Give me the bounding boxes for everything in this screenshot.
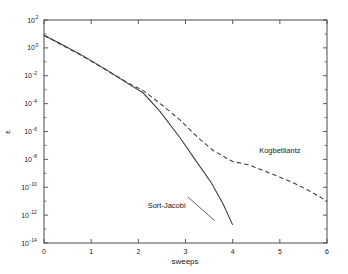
x-tick-label: 6 — [325, 248, 329, 255]
y-axis-label: ε — [3, 130, 12, 134]
x-tick-label: 0 — [42, 248, 46, 255]
y-tick-label: 10 — [21, 184, 29, 191]
x-tick-label: 4 — [231, 248, 235, 255]
x-axis-tick-labels: 0123456 — [42, 248, 329, 255]
y-tick-exponent: 0 — [36, 42, 39, 48]
y-tick-label: 10 — [24, 100, 32, 107]
x-tick-label: 2 — [136, 248, 140, 255]
y-tick-label: 10 — [24, 156, 32, 163]
y-tick-exponent: -12 — [30, 209, 37, 215]
axis-titles: sweeps ε — [3, 130, 199, 266]
x-tick-label: 1 — [89, 248, 93, 255]
series-line-dashed — [44, 35, 327, 201]
y-tick-exponent: -2 — [33, 70, 38, 76]
series-line-solid — [44, 35, 233, 225]
y-tick-label: 10 — [24, 128, 32, 135]
x-tick-label: 3 — [184, 248, 188, 255]
y-tick-exponent: -8 — [33, 153, 38, 159]
y-tick-exponent: -6 — [33, 126, 38, 132]
y-tick-exponent: 2 — [36, 14, 39, 20]
y-tick-label: 10 — [21, 240, 29, 247]
x-axis-label: sweeps — [171, 257, 198, 266]
y-tick-exponent: -14 — [30, 237, 37, 243]
data-series-group — [44, 35, 327, 225]
chart-canvas: 10210010-210-410-610-810-1010-1210-14 01… — [0, 0, 348, 274]
y-tick-exponent: -10 — [30, 181, 37, 187]
y-tick-label: 10 — [21, 212, 29, 219]
y-tick-label: 10 — [27, 17, 35, 24]
y-tick-label: 10 — [24, 72, 32, 79]
x-tick-label: 5 — [278, 248, 282, 255]
y-tick-label: 10 — [27, 44, 35, 51]
y-tick-exponent: -4 — [33, 98, 38, 104]
chart-figure: 10210010-210-410-610-810-1010-1210-14 01… — [0, 0, 348, 274]
curve-annotation: Kogbetliantz — [259, 146, 301, 155]
curve-annotation: Sort-Jacobi — [148, 201, 186, 210]
y-axis-tick-labels: 10210010-210-410-610-810-1010-1210-14 — [21, 14, 38, 247]
annotation-leader-line — [188, 197, 215, 221]
